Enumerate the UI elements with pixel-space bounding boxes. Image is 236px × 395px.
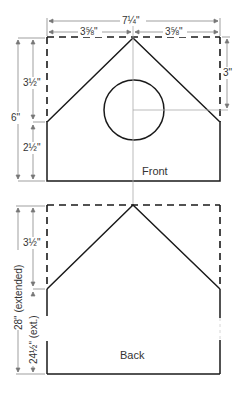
back-panel: Back bbox=[47, 205, 220, 374]
dim-back-total-height: 28" (extended) bbox=[13, 265, 24, 330]
dim-wall-height: 2½" bbox=[23, 142, 41, 153]
front-dimensions bbox=[16, 18, 230, 181]
front-label: Front bbox=[142, 165, 168, 177]
dim-total-width: 7¼" bbox=[122, 15, 140, 26]
front-outline bbox=[47, 38, 220, 181]
dim-back-wall-height: 24½" (ext.) bbox=[28, 315, 39, 364]
dim-hole-offset: 3" bbox=[223, 67, 233, 78]
front-dimension-labels: 7¼" 3⅝" 3⅝" 6" 3½" 2½" 3" bbox=[10, 14, 236, 154]
back-dashed-outline bbox=[47, 205, 220, 289]
back-roof bbox=[47, 205, 220, 289]
birdhouse-panel-diagram: Front 7¼" 3⅝" 3⅝" 6" 3½" bbox=[0, 0, 236, 395]
dim-roof-height: 3½" bbox=[23, 77, 41, 88]
front-panel: Front bbox=[47, 20, 228, 205]
dim-back-roof-height: 3½" bbox=[23, 237, 41, 248]
back-label: Back bbox=[120, 349, 145, 361]
dim-total-height: 6" bbox=[11, 112, 21, 123]
dim-half-width-left: 3⅝" bbox=[80, 26, 98, 37]
dim-half-width-right: 3⅝" bbox=[165, 26, 183, 37]
